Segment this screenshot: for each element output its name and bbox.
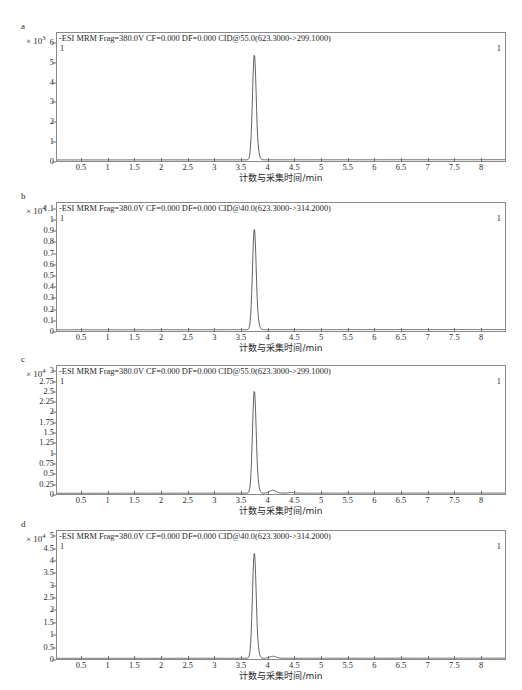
x-tick-label: 6.5 [396,333,406,342]
x-tick-mark [241,158,242,162]
x-tick-mark [401,158,402,162]
x-tick-mark [428,158,429,162]
x-tick-label: 6.5 [396,496,406,505]
x-tick-label: 4 [266,163,270,172]
x-tick-mark [108,158,109,162]
chromatogram-panel-d: d× 10400.511.522.533.544.55-ESI MRM Frag… [0,520,522,690]
plot-area-b: -ESI MRM Frag=380.0V CF=0.000 DF=0.000 C… [56,202,506,332]
x-tick-mark [241,656,242,660]
x-tick-label: 8 [479,333,483,342]
x-tick-label: 8 [479,496,483,505]
x-tick-label: 1.5 [129,333,139,342]
x-tick-label: 1.5 [129,496,139,505]
x-tick-mark [481,491,482,495]
y-axis-a: 0123456 [0,22,54,194]
x-tick-label: 3 [212,333,216,342]
x-tick-mark [401,491,402,495]
x-tick-label: 6 [372,496,376,505]
x-tick-mark [321,328,322,332]
x-tick-label: 2 [159,333,163,342]
x-tick-label: 1 [106,496,110,505]
x-tick-mark [161,491,162,495]
x-tick-label: 6 [372,661,376,670]
x-tick-mark [401,656,402,660]
x-tick-label: 3.5 [236,496,246,505]
x-tick-label: 6 [372,333,376,342]
x-tick-mark [454,158,455,162]
plot-area-c: -ESI MRM Frag=380.0V CF=0.000 DF=0.000 C… [56,365,506,495]
x-tick-label: 7 [426,163,430,172]
x-tick-label: 4.5 [289,163,299,172]
x-tick-label: 4 [266,333,270,342]
x-tick-label: 7 [426,333,430,342]
y-axis-c: 00.250.50.7511.251.51.7522.252.52.753 [0,355,54,527]
chromatogram-panel-a: a× 1030123456-ESI MRM Frag=380.0V CF=0.0… [0,22,522,194]
x-tick-label: 2 [159,163,163,172]
x-tick-label: 4 [266,661,270,670]
x-tick-mark [81,491,82,495]
x-tick-label: 3 [212,661,216,670]
x-tick-label: 1 [106,163,110,172]
x-tick-label: 2.5 [182,496,192,505]
x-tick-label: 2.5 [182,333,192,342]
x-tick-mark [188,328,189,332]
x-tick-label: 1.5 [129,661,139,670]
y-axis-d: 00.511.522.533.544.55 [0,520,54,690]
x-tick-label: 5 [319,661,323,670]
x-tick-mark [481,656,482,660]
chromatogram-panel-c: c× 10400.250.50.7511.251.51.7522.252.52.… [0,355,522,527]
chromatogram-trace-c [57,366,505,494]
x-tick-label: 0.5 [76,496,86,505]
x-tick-mark [161,328,162,332]
x-axis-title-a: 计数与采集时间/min [56,173,506,184]
x-tick-mark [454,656,455,660]
x-tick-label: 6 [372,163,376,172]
x-tick-mark [481,328,482,332]
x-tick-mark [81,158,82,162]
x-tick-label: 4.5 [289,661,299,670]
chromatogram-trace-d [57,531,505,659]
x-tick-label: 5.5 [342,163,352,172]
x-tick-label: 6.5 [396,661,406,670]
x-tick-label: 5.5 [342,496,352,505]
x-tick-mark [348,158,349,162]
x-tick-label: 2.5 [182,661,192,670]
x-tick-mark [481,158,482,162]
x-tick-mark [241,491,242,495]
x-tick-label: 7.5 [449,661,459,670]
x-tick-mark [374,158,375,162]
x-tick-label: 6.5 [396,163,406,172]
x-tick-mark [161,158,162,162]
x-tick-mark [428,656,429,660]
x-tick-mark [214,656,215,660]
x-tick-label: 2.5 [182,163,192,172]
x-tick-mark [188,158,189,162]
plot-area-a: -ESI MRM Frag=380.0V CF=0.000 DF=0.000 C… [56,32,506,162]
x-tick-mark [108,328,109,332]
x-tick-label: 5.5 [342,333,352,342]
figure-container: a× 1030123456-ESI MRM Frag=380.0V CF=0.0… [0,0,522,690]
x-tick-mark [374,656,375,660]
x-tick-label: 4 [266,496,270,505]
x-tick-label: 8 [479,661,483,670]
x-tick-mark [268,158,269,162]
x-tick-label: 7.5 [449,496,459,505]
x-tick-mark [321,656,322,660]
x-tick-label: 3 [212,496,216,505]
x-tick-label: 0.5 [76,163,86,172]
x-tick-label: 5.5 [342,661,352,670]
x-tick-mark [134,158,135,162]
x-tick-mark [294,158,295,162]
x-tick-label: 0.5 [76,333,86,342]
x-tick-mark [454,491,455,495]
x-tick-label: 4.5 [289,333,299,342]
x-tick-label: 5 [319,496,323,505]
x-tick-mark [454,328,455,332]
chromatogram-trace-b [57,203,505,331]
x-tick-label: 1.5 [129,163,139,172]
x-tick-label: 7.5 [449,333,459,342]
x-tick-mark [268,491,269,495]
x-axis-title-c: 计数与采集时间/min [56,506,506,517]
x-tick-mark [428,328,429,332]
x-tick-mark [134,656,135,660]
